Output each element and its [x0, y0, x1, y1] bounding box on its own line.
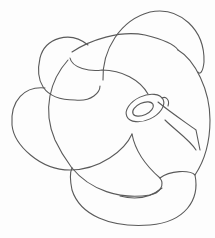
center-ring-inner	[130, 99, 155, 119]
sphere-arc-left	[49, 60, 72, 168]
sphere-arc-right	[178, 50, 210, 175]
center-ring-outer	[122, 89, 168, 128]
top-band	[72, 34, 178, 52]
diagonal-band	[158, 97, 200, 150]
drawing-canvas	[0, 0, 215, 238]
knot-drawing	[0, 0, 215, 238]
diagonal-band-edge	[165, 120, 196, 150]
left-upper-loop	[39, 37, 100, 100]
top-band-inner	[70, 58, 148, 94]
lower-body-left	[132, 134, 160, 178]
top-right-loop	[103, 11, 204, 80]
lower-body-bottom	[72, 168, 162, 196]
